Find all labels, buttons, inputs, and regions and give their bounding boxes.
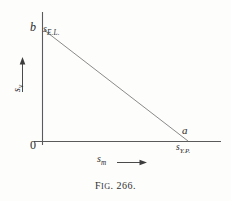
yield-point-label: sY.P. — [176, 143, 190, 155]
endurance-limit-label: sE.L. — [43, 24, 60, 37]
x-axis-label: sm — [97, 154, 106, 167]
figure-container: b sE.L. a sY.P. 0 sm sv FIG. 266. — [0, 0, 231, 201]
point-a-label: a — [182, 125, 188, 136]
strength-line — [44, 30, 188, 141]
x-axis-subscript: m — [101, 159, 106, 167]
y-axis-subscript: v — [17, 85, 25, 88]
y-axis-symbol: s — [11, 88, 22, 92]
x-axis-arrow-icon — [117, 160, 147, 166]
yield-point-subscript: Y.P. — [180, 147, 191, 154]
caption-smallcaps: IG — [101, 182, 111, 191]
origin-label: 0 — [30, 139, 36, 151]
caption-number: . 266. — [111, 180, 137, 191]
figure-caption: FIG. 266. — [0, 180, 231, 191]
y-axis-label: sv — [12, 85, 25, 92]
point-b-label: b — [30, 21, 36, 33]
endurance-limit-subscript: E.L. — [47, 29, 60, 37]
